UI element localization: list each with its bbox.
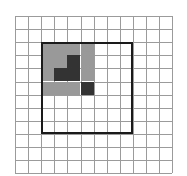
figure-canvas	[0, 0, 187, 176]
bounding-square-outline	[41, 42, 133, 134]
